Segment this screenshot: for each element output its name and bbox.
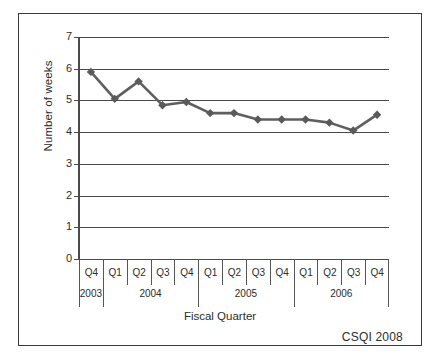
x-tick-label-6: Q2 [222, 259, 246, 285]
x-tick-label-1: Q1 [103, 259, 127, 285]
x-tick-label-4: Q4 [174, 259, 198, 285]
x-year-label-2003: 2003 [79, 285, 103, 307]
x-year-label-2005: 2005 [198, 285, 293, 307]
x-tick-label-8: Q4 [270, 259, 294, 285]
x-axis-title: Fiscal Quarter [19, 310, 421, 322]
x-tick-label-2: Q2 [127, 259, 151, 285]
x-tick-label-3: Q3 [151, 259, 175, 285]
data-point-marker [230, 109, 238, 117]
x-axis-year-labels: 2003200420052006 [79, 285, 389, 307]
chart-figure: Number of weeks 01234567 Q4Q1Q2Q3Q4Q1Q2Q… [18, 13, 422, 346]
data-point-marker [182, 98, 190, 106]
x-year-separator [103, 285, 104, 307]
y-tick-label-4: 4 [52, 126, 72, 137]
y-tick-label-1: 1 [52, 221, 72, 232]
x-tick-label-0: Q4 [79, 259, 103, 285]
data-point-marker [277, 115, 285, 123]
data-point-marker [325, 118, 333, 126]
x-year-separator [198, 285, 199, 307]
data-point-marker [301, 115, 309, 123]
plot-area: 01234567 [79, 37, 389, 259]
y-tick-label-5: 5 [52, 94, 72, 105]
credit-label: CSQI 2008 [342, 330, 403, 344]
x-year-separator [388, 285, 389, 307]
x-tick-label-11: Q3 [341, 259, 365, 285]
y-tick-label-7: 7 [52, 31, 72, 42]
data-series [79, 37, 389, 259]
y-tick-label-2: 2 [52, 190, 72, 201]
x-axis-quarter-labels: Q4Q1Q2Q3Q4Q1Q2Q3Q4Q1Q2Q3Q4 [79, 259, 389, 285]
x-tick-label-10: Q2 [317, 259, 341, 285]
y-tick-label-3: 3 [52, 158, 72, 169]
series-line [91, 72, 377, 131]
data-point-marker [206, 109, 214, 117]
data-point-marker [254, 115, 262, 123]
x-tick-label-9: Q1 [294, 259, 318, 285]
x-year-separator [79, 285, 80, 307]
x-tick-label-12: Q4 [365, 259, 389, 285]
x-year-separator [294, 285, 295, 307]
y-tick-label-0: 0 [52, 253, 72, 264]
x-tick-label-7: Q3 [246, 259, 270, 285]
x-year-label-2004: 2004 [103, 285, 198, 307]
x-tick-label-5: Q1 [198, 259, 222, 285]
y-tick-label-6: 6 [52, 63, 72, 74]
x-year-label-2006: 2006 [294, 285, 389, 307]
